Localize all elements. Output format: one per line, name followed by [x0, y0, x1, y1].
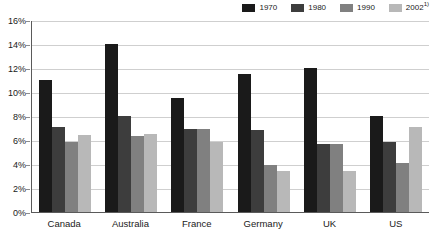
legend-swatch-icon [389, 4, 402, 12]
bar-canada-1990[interactable] [65, 142, 78, 212]
bar-france-1990[interactable] [197, 129, 210, 212]
bar-australia-2002[interactable] [144, 134, 157, 212]
legend-label: 1980 [308, 4, 326, 12]
bar-us-1980[interactable] [383, 142, 396, 212]
y-tick-label: 10% [8, 89, 26, 98]
plot-wrapper: 0%2%4%6%8%10%12%14%16% [0, 18, 431, 218]
x-tick-label-canada: Canada [31, 218, 97, 230]
y-tick-label: 2% [13, 185, 26, 194]
bar-australia-1970[interactable] [105, 44, 118, 212]
y-tick-mark [26, 45, 30, 46]
y-tick-label: 0% [13, 209, 26, 218]
y-tick-mark [26, 213, 30, 214]
y-tick-label: 6% [13, 137, 26, 146]
x-tick-label-australia: Australia [97, 218, 163, 230]
bar-uk-1980[interactable] [317, 144, 330, 212]
chart-legend: 19701980199020021) [242, 2, 429, 14]
bar-group-uk [297, 21, 363, 212]
legend-entry-1970[interactable]: 1970 [242, 4, 277, 12]
legend-swatch-icon [291, 4, 304, 12]
bar-uk-2002[interactable] [343, 171, 356, 212]
bar-australia-1990[interactable] [131, 136, 144, 212]
bar-group-france [164, 21, 230, 212]
bar-uk-1990[interactable] [330, 144, 343, 212]
legend-entry-1990[interactable]: 1990 [340, 4, 375, 12]
plot-area [31, 21, 429, 213]
legend-entry-2002[interactable]: 20021) [389, 4, 429, 12]
bar-us-2002[interactable] [409, 127, 422, 212]
y-tick-mark [26, 69, 30, 70]
bar-uk-1970[interactable] [304, 68, 317, 212]
bar-france-1970[interactable] [171, 98, 184, 212]
y-tick-mark [26, 189, 30, 190]
bar-group-australia [98, 21, 164, 212]
bar-australia-1980[interactable] [118, 116, 131, 212]
y-tick-label: 16% [8, 17, 26, 26]
legend-swatch-icon [242, 4, 255, 12]
bar-groups [32, 21, 429, 212]
legend-entry-1980[interactable]: 1980 [291, 4, 326, 12]
legend-label: 1990 [357, 4, 375, 12]
bar-canada-1980[interactable] [52, 127, 65, 212]
y-tick-label: 4% [13, 161, 26, 170]
y-tick-mark [26, 165, 30, 166]
y-tick-mark [26, 21, 30, 22]
bar-group-germany [231, 21, 297, 212]
x-tick-label-uk: UK [296, 218, 362, 230]
x-tick-label-us: US [363, 218, 429, 230]
bar-canada-2002[interactable] [78, 135, 91, 212]
bar-group-us [363, 21, 429, 212]
y-axis: 0%2%4%6%8%10%12%14%16% [0, 18, 30, 213]
bar-us-1970[interactable] [370, 116, 383, 212]
legend-label: 1970 [259, 4, 277, 12]
legend-label: 20021) [406, 4, 429, 12]
bar-france-1980[interactable] [184, 129, 197, 212]
bar-group-canada [32, 21, 98, 212]
y-tick-label: 14% [8, 41, 26, 50]
bar-canada-1970[interactable] [39, 80, 52, 212]
x-tick-label-france: France [164, 218, 230, 230]
x-axis: CanadaAustraliaFranceGermanyUKUS [31, 218, 429, 234]
bar-germany-1990[interactable] [264, 165, 277, 212]
bar-germany-2002[interactable] [277, 171, 290, 212]
bar-us-1990[interactable] [396, 163, 409, 212]
legend-swatch-icon [340, 4, 353, 12]
x-tick-label-germany: Germany [230, 218, 296, 230]
bar-france-2002[interactable] [210, 142, 223, 212]
y-tick-label: 8% [13, 113, 26, 122]
y-tick-label: 12% [8, 65, 26, 74]
bar-germany-1970[interactable] [238, 74, 251, 212]
y-tick-mark [26, 117, 30, 118]
y-tick-mark [26, 141, 30, 142]
legend-label-superscript: 1) [424, 1, 429, 7]
bar-chart: 19701980199020021) 0%2%4%6%8%10%12%14%16… [0, 0, 431, 244]
y-tick-mark [26, 93, 30, 94]
bar-germany-1980[interactable] [251, 130, 264, 212]
